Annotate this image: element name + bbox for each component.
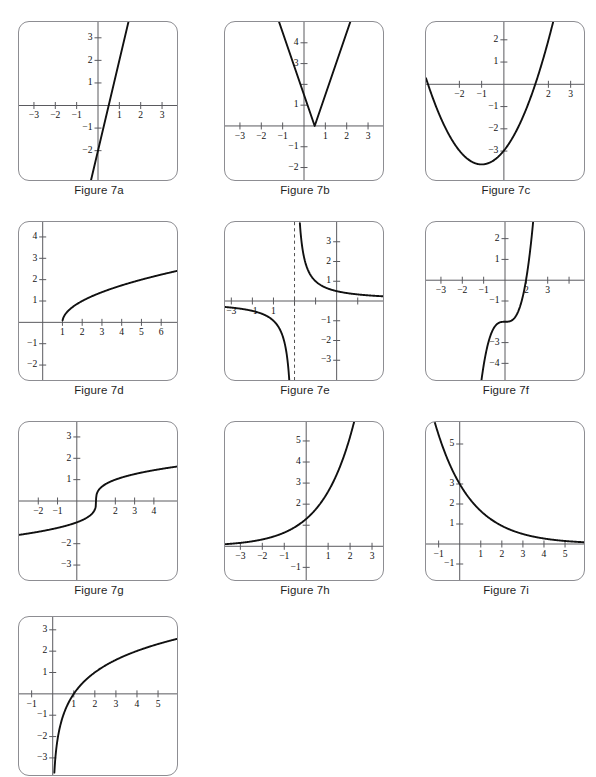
x-tick-label: −2 [50,109,60,120]
x-tick-label: −1 [477,88,487,99]
x-tick-label: 3 [366,130,371,141]
y-tick-label: 1 [494,55,499,66]
figure-panel-7a: −3−2−1123−2−1123 [18,21,178,181]
figure-caption-7e: Figure 7e [224,384,386,396]
graph-7e: −3−11−3−2−1123 [225,222,383,380]
y-tick-label: −1 [27,337,37,348]
x-tick-label: 4 [151,505,156,516]
y-tick-label: −1 [290,561,300,572]
x-tick-label: −2 [33,505,43,516]
figure-7c: −2−123−3−2−112Figure 7c [425,21,587,196]
x-tick-label: 3 [545,284,550,295]
y-tick-label: 2 [32,273,37,284]
curve [426,22,554,164]
page-header-strip [0,0,596,10]
figure-7a: −3−2−1123−2−1123Figure 7a [18,21,180,196]
y-tick-label: 1 [42,666,47,677]
y-tick-label: −2 [288,161,298,172]
y-tick-label: 3 [449,477,454,488]
graph-7g: −2−1234−3−2123 [19,422,177,580]
y-tick-label: 3 [326,235,331,246]
y-tick-label: 2 [67,452,72,463]
y-tick-label: −1 [82,121,92,132]
x-tick-label: −2 [454,88,464,99]
y-tick-label: −4 [489,357,499,368]
x-tick-label: −2 [256,130,266,141]
y-tick-label: 2 [42,644,47,655]
x-tick-label: 2 [499,548,504,559]
x-tick-label: 2 [113,505,118,516]
figure-caption-7i: Figure 7i [425,584,587,596]
y-tick-label: 1 [449,517,454,528]
x-tick-label: 2 [92,698,97,709]
x-tick-label: −3 [436,284,446,295]
figure-7f: −3−2−123−4−3−112Figure 7f [425,221,587,396]
y-tick-label: −1 [489,294,499,305]
figure-7g: −2−1234−3−2123Figure 7g [18,421,180,596]
x-tick-label: −2 [257,550,267,561]
graph-7c: −2−123−3−2−112 [426,22,584,180]
x-tick-label: −1 [278,130,288,141]
x-tick-label: 2 [80,326,85,337]
y-tick-label: 2 [449,497,454,508]
x-tick-label: −1 [479,284,489,295]
y-tick-label: −3 [489,336,499,347]
figure-panel-7j: −112345−3−2−1123 [18,616,178,776]
figure-caption-7d: Figure 7d [18,384,180,396]
figure-panel-7b: −3−2−1123−2−1134 [224,21,384,181]
y-tick-label: −3 [61,558,71,569]
y-tick-label: 1 [32,294,37,305]
x-tick-label: 1 [71,698,76,709]
y-tick-label: 1 [495,253,500,264]
figure-caption-7f: Figure 7f [425,384,587,396]
figure-caption-7h: Figure 7h [224,584,386,596]
curve [225,307,289,380]
y-tick-label: 2 [88,54,93,65]
y-tick-label: 3 [42,623,47,634]
x-tick-label: −1 [279,550,289,561]
graph-7a: −3−2−1123−2−1123 [19,22,177,180]
figure-panel-7d: 123456−2−11234 [18,221,178,381]
figure-panel-7c: −2−123−3−2−112 [425,21,585,181]
figure-panel-7i: −112345−11235 [425,421,585,581]
y-tick-label: −2 [27,358,37,369]
x-tick-label: 3 [160,109,165,120]
y-tick-label: 4 [296,455,301,466]
y-tick-label: −3 [488,144,498,155]
y-tick-label: 3 [296,476,301,487]
y-tick-label: 5 [449,437,454,448]
y-tick-label: −1 [488,100,498,111]
x-tick-label: 1 [60,326,65,337]
x-tick-label: −1 [52,505,62,516]
y-tick-label: −2 [488,122,498,133]
figure-7h: −3−2−1123−12345Figure 7h [224,421,386,596]
y-tick-label: 3 [32,252,37,263]
x-tick-label: 5 [139,326,144,337]
x-tick-label: 1 [323,130,328,141]
x-tick-label: 3 [114,698,119,709]
figure-7e: −3−11−3−2−1123Figure 7e [224,221,386,396]
x-tick-label: −3 [235,130,245,141]
figure-7j: −112345−3−2−1123 [18,616,180,777]
y-tick-label: −3 [321,353,331,364]
x-tick-label: −3 [29,109,39,120]
y-tick-label: 2 [494,33,499,44]
y-tick-label: −2 [37,730,47,741]
graph-7d: 123456−2−11234 [19,222,177,380]
y-tick-label: 1 [67,473,72,484]
x-tick-label: 3 [132,505,137,516]
y-tick-label: 1 [294,98,299,109]
y-tick-label: −1 [37,708,47,719]
figure-7b: −3−2−1123−2−1134Figure 7b [224,21,386,196]
y-tick-label: −1 [321,314,331,325]
y-tick-label: 3 [67,430,72,441]
graph-7h: −3−2−1123−12345 [225,422,383,580]
x-tick-label: 4 [119,326,124,337]
figure-panel-7e: −3−11−3−2−1123 [224,221,384,381]
curve [277,22,352,126]
figure-caption-7c: Figure 7c [425,184,587,196]
y-tick-label: −1 [444,557,454,568]
y-tick-label: 2 [326,255,331,266]
graph-7f: −3−2−123−4−3−112 [426,222,584,380]
x-tick-label: 4 [542,548,547,559]
